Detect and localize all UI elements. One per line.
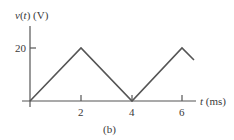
x-tick-label-4: 4 (129, 106, 135, 118)
y-axis-label: v(t) (V) (15, 9, 49, 22)
x-tick-label-2: 2 (78, 106, 84, 118)
voltage-waveform (30, 48, 194, 101)
x-tick-label-6: 6 (179, 106, 185, 118)
figure-caption: (b) (103, 123, 116, 136)
y-tick-label-20: 20 (15, 42, 27, 54)
x-axis-label: t (ms) (200, 95, 226, 108)
triangle-waveform-figure: v(t) (V) 20 2 4 6 t (ms) (b) (0, 0, 234, 140)
